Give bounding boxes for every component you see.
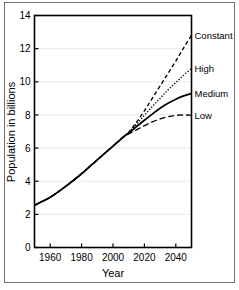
- x-tick-label: 1960: [39, 252, 62, 263]
- series-line-high: [35, 69, 192, 206]
- y-axis-tick-labels: 02468101214: [19, 10, 31, 253]
- series-label-medium: Medium: [195, 88, 229, 99]
- x-axis-title: Year: [102, 267, 125, 279]
- series-label-low: Low: [195, 110, 213, 121]
- series-line-low: [35, 115, 192, 205]
- gridlines: [35, 49, 192, 215]
- series-label-constant: Constant: [195, 30, 233, 41]
- x-tick-label: 1980: [70, 252, 93, 263]
- series-line-medium: [35, 93, 192, 205]
- x-tick-label: 2040: [165, 252, 188, 263]
- series-label-high: High: [195, 63, 215, 74]
- plot-frame: [35, 16, 192, 248]
- y-tick-label: 0: [25, 242, 31, 253]
- x-tick-label: 2020: [133, 252, 156, 263]
- y-tick-label: 12: [19, 43, 31, 54]
- y-tick-label: 6: [25, 143, 31, 154]
- series-annotation-labels: ConstantHighMediumLow: [195, 30, 233, 121]
- y-axis-title: Population in billions: [5, 81, 17, 182]
- y-tick-label: 2: [25, 209, 31, 220]
- y-tick-label: 10: [19, 76, 31, 87]
- x-tick-label: 2000: [102, 252, 125, 263]
- population-projection-figure: 02468101214 19601980200020202040 Constan…: [0, 0, 239, 290]
- series-lines: [35, 35, 192, 205]
- y-tick-label: 4: [25, 176, 31, 187]
- x-axis-tick-labels: 19601980200020202040: [39, 252, 187, 263]
- series-line-constant: [35, 35, 192, 205]
- population-line-chart: 02468101214 19601980200020202040 Constan…: [0, 0, 239, 290]
- y-tick-label: 8: [25, 110, 31, 121]
- y-tick-label: 14: [19, 10, 31, 21]
